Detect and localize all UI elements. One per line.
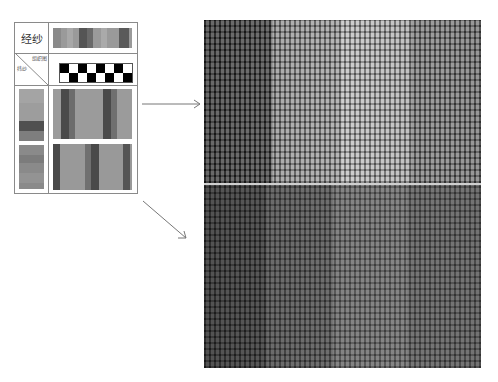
weave-cell-white: [96, 73, 105, 82]
weft-yarn-label: 纬纱: [17, 65, 27, 72]
weave-diagram-label: 组织图: [32, 54, 47, 61]
weave-cell-black: [96, 64, 105, 73]
weave-cell-black: [69, 73, 78, 82]
weave-cell-black: [114, 64, 123, 73]
fabric-closeup-top: [204, 20, 481, 183]
weft-yarn-sample-1: [19, 89, 44, 141]
weave-cell-white: [78, 73, 87, 82]
fabric-sample-1: [53, 89, 132, 139]
weave-cell-white: [69, 64, 78, 73]
weave-cell-white: [105, 64, 114, 73]
weave-cell-white: [114, 73, 123, 82]
warp-yarn-strip: [53, 28, 132, 48]
warp-yarn-label: 经纱: [15, 23, 49, 54]
fabric-sample-2: [53, 144, 132, 190]
weave-cell-white: [60, 73, 69, 82]
fabric-closeup-panel: [204, 20, 481, 368]
weave-diagram-header: 组织图 纬纱: [15, 53, 49, 86]
arrow-down-right-icon: [140, 198, 190, 244]
weave-cell-black: [60, 64, 69, 73]
fabric-closeup-bottom: [204, 185, 481, 368]
weave-cell-white: [87, 64, 96, 73]
warp-yarn-text: 经纱: [21, 30, 43, 46]
weave-pattern-grid: [59, 63, 133, 83]
weave-cell-black: [87, 73, 96, 82]
weave-cell-black: [105, 73, 114, 82]
weave-cell-black: [123, 73, 132, 82]
yarn-weave-table: 经纱 组织图 纬纱: [14, 22, 138, 194]
weave-cell-black: [78, 64, 87, 73]
weave-cell-white: [123, 64, 132, 73]
arrow-right-icon: [140, 98, 204, 110]
weft-yarn-sample-2: [19, 145, 44, 189]
